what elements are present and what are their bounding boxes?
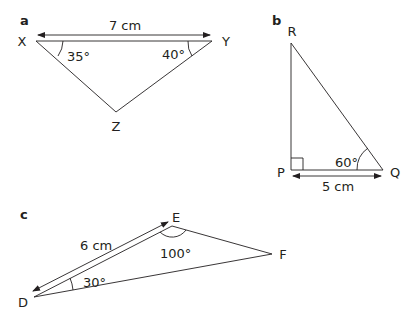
triangle-xyz: a 7 cm 35° 40° X Y Z	[18, 13, 230, 134]
triangle-outline-rpq	[291, 43, 383, 170]
side-label-xy: 7 cm	[109, 18, 141, 33]
vertex-label-q: Q	[390, 165, 400, 180]
vertex-label-y: Y	[221, 34, 230, 49]
triangle-def: c 6 cm 100° 30° E F D	[18, 207, 287, 310]
angle-label-q: 60°	[335, 155, 358, 170]
vertex-label-p: P	[277, 165, 285, 180]
part-label-a: a	[20, 13, 29, 28]
vertex-label-d: D	[18, 295, 28, 310]
side-label-de: 6 cm	[80, 238, 112, 253]
triangle-rpq: b 60° 5 cm R P Q	[272, 13, 400, 194]
angle-label-e: 100°	[160, 246, 191, 261]
part-label-c: c	[20, 207, 28, 222]
part-label-b: b	[272, 13, 281, 28]
angle-arc-y	[188, 41, 192, 56]
angle-arc-e	[160, 230, 186, 237]
vertex-label-r: R	[287, 24, 296, 39]
triangle-outline-xyz	[36, 41, 212, 112]
triangles-figure: a 7 cm 35° 40° X Y Z b 60° 5 cm R P Q c …	[0, 0, 415, 334]
angle-arc-x	[58, 41, 63, 56]
triangle-outline-def	[34, 226, 272, 297]
angle-label-x: 35°	[67, 49, 90, 64]
angle-label-d: 30°	[83, 275, 106, 290]
angle-arc-d	[70, 278, 73, 290]
right-angle-marker-p	[291, 158, 303, 170]
vertex-label-e: E	[172, 210, 180, 225]
angle-label-y: 40°	[162, 47, 185, 62]
vertex-label-x: X	[18, 34, 27, 49]
side-label-pq: 5 cm	[322, 179, 354, 194]
vertex-label-z: Z	[112, 119, 121, 134]
angle-arc-q	[357, 148, 368, 170]
vertex-label-f: F	[279, 247, 286, 262]
